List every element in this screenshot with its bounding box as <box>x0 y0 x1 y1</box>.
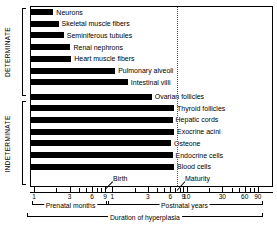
axis-tick-minor <box>86 188 87 192</box>
bar-label: Blood cells <box>177 161 211 172</box>
axis-tick-label: 90 <box>254 193 261 200</box>
axis-tick-minor <box>232 188 233 192</box>
axis-tick-label: 30 <box>219 193 226 200</box>
bar <box>31 129 174 135</box>
axis-tick-major <box>245 186 246 192</box>
axis-tick-label: 60 <box>241 193 248 200</box>
bar <box>31 94 152 100</box>
bar-label: Ovarian follicles <box>155 91 204 102</box>
axis-tick-major <box>112 186 113 192</box>
axis-group-label-indeterminate: INDETERMINATE <box>0 100 14 187</box>
bar-row: Endocrine cells <box>31 150 272 162</box>
axis-tick-label: 10 <box>183 193 190 200</box>
axis-tick-major <box>187 186 188 192</box>
axis-tick-major <box>92 186 93 192</box>
bar-row: Renal nephrons <box>31 42 272 54</box>
axis-tick-minor <box>180 188 181 192</box>
axis-tick-minor <box>101 188 102 192</box>
bar-row: Skeletal muscle fibers <box>31 19 272 31</box>
bar <box>31 21 59 27</box>
axis-tick-major <box>148 186 149 192</box>
bar-row: Ovarian follicles <box>31 92 272 104</box>
bar <box>31 105 174 111</box>
axis-tick-minor <box>157 188 158 192</box>
axis-tick-major <box>258 186 259 192</box>
axis-tick-minor <box>56 188 57 192</box>
axis-tick-major <box>222 186 223 192</box>
bar-label: Skeletal muscle fibers <box>62 18 130 29</box>
bar <box>31 56 71 62</box>
bar <box>31 140 171 146</box>
bar <box>31 44 70 50</box>
bar-label: Exocrine acini <box>177 126 221 137</box>
axis-tick-label: 1 <box>110 193 114 200</box>
axis-tick-label: 9 <box>103 193 107 200</box>
axis-group-label-determinate: DETERMINATE <box>0 6 14 98</box>
bar <box>31 152 173 158</box>
axis-tick-major <box>183 186 184 192</box>
axis-tick-minor <box>239 188 240 192</box>
bar-row: Seminiferous tubules <box>31 30 272 42</box>
bar-row: Intestinal villi <box>31 77 272 89</box>
bar <box>31 117 173 123</box>
bar-row: Neurons <box>31 7 272 19</box>
bar <box>31 9 53 15</box>
bar-row: Exocrine acini <box>31 127 272 139</box>
bar-label: Thyroid follicles <box>177 103 225 114</box>
bar-row: Osteone <box>31 138 272 150</box>
axis-group-label-determinate-text: DETERMINATE <box>4 27 11 77</box>
bracket-postnatal-label: Postnatal years <box>159 202 210 209</box>
bar-label: Intestinal villi <box>131 77 171 88</box>
bracket-prenatal-label: Prenatal months <box>44 202 98 209</box>
bar-row: Heart muscle fibers <box>31 54 272 66</box>
bar-label: Seminiferous tubules <box>67 30 132 41</box>
bar-label: Hepatic cords <box>176 114 219 125</box>
bar-label: Heart muscle fibers <box>74 53 134 64</box>
bar <box>31 68 115 74</box>
bar-label: Neurons <box>56 7 82 18</box>
axis-tick-minor <box>135 188 136 192</box>
maturity-reference-line <box>177 7 178 186</box>
group-bracket-determinate <box>22 8 26 96</box>
bar-label: Pulmonary alveoli <box>118 65 173 76</box>
axis-tick-major <box>170 186 171 192</box>
group-bracket-indeterminate <box>22 101 26 185</box>
bar-label: Endocrine cells <box>176 150 223 161</box>
axis-tick-minor <box>79 188 80 192</box>
bar <box>31 164 174 170</box>
bar-row: Hepatic cords <box>31 115 272 127</box>
hyperplasia-duration-figure: DETERMINATE INDETERMINATE NeuronsSkeleta… <box>0 0 277 230</box>
bar-label: Osteone <box>174 138 200 149</box>
bar <box>31 79 128 85</box>
axis-tick-major <box>70 186 71 192</box>
bar-row: Pulmonary alveoli <box>31 66 272 78</box>
axis-tick-label: 3 <box>146 193 150 200</box>
axis-tick-minor <box>250 188 251 192</box>
bar-row: Thyroid follicles <box>31 103 272 115</box>
axis-tick-minor <box>164 188 165 192</box>
bars-layer: NeuronsSkeletal muscle fibersSeminiferou… <box>31 7 272 186</box>
axis-group-label-indeterminate-text: INDETERMINATE <box>4 115 11 172</box>
axis-tick-minor <box>254 188 255 192</box>
axis-tick-minor <box>209 188 210 192</box>
axis-tick-label: 3 <box>68 193 72 200</box>
x-axis-line <box>30 192 273 193</box>
maturity-annotation: Maturity <box>185 175 210 182</box>
bar-row: Blood cells <box>31 162 272 174</box>
bar-label: Renal nephrons <box>73 42 122 53</box>
axis-tick-label: 6 <box>90 193 94 200</box>
axis-tick-minor <box>97 188 98 192</box>
axis-tick-major <box>34 186 35 192</box>
bracket-duration-of-hyperplasia-label: Duration of hyperplasia <box>108 214 182 221</box>
axis-tick-label: 6 <box>168 193 172 200</box>
bar <box>31 32 64 38</box>
axis-tick-label: 1 <box>32 193 36 200</box>
birth-annotation: Birth <box>113 175 127 182</box>
